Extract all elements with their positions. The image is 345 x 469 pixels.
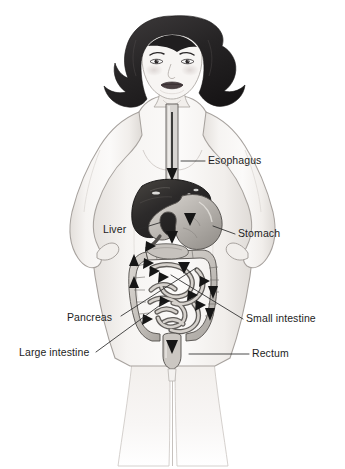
liver-highlight-2 — [193, 189, 198, 191]
label-esophagus: Esophagus — [208, 154, 261, 166]
label-rectum: Rectum — [252, 347, 289, 359]
right-thigh — [175, 362, 228, 466]
left-thigh — [118, 362, 170, 466]
mouth — [161, 82, 183, 89]
cheek-right — [181, 64, 199, 76]
eye-left — [150, 59, 163, 64]
organ-esophagus — [166, 104, 178, 190]
anatomy-illustration-canvas — [0, 0, 345, 469]
label-small-intestine: Small intestine — [246, 312, 316, 324]
label-pancreas: Pancreas — [67, 311, 112, 323]
anal-canal — [168, 369, 176, 381]
eye-right — [181, 59, 194, 64]
head — [104, 16, 245, 108]
liver-highlight-1 — [152, 191, 160, 194]
label-large-intestine: Large intestine — [19, 346, 89, 358]
cheek-left — [145, 64, 163, 76]
digestive-system-figure: Esophagus Liver Stomach Pancreas Small i… — [0, 0, 345, 469]
label-liver: Liver — [103, 223, 126, 235]
label-stomach: Stomach — [238, 227, 280, 239]
